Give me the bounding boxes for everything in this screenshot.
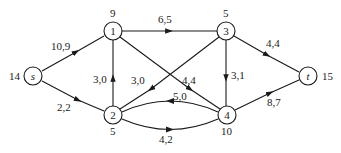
edge-label-1-4: 4,4 [182,74,196,86]
node-4-label: 4 [224,109,230,121]
nodes: s 14 1 9 2 5 3 5 4 10 t 15 [9,7,334,137]
node-1-value: 9 [110,7,116,19]
node-3-value: 5 [223,7,229,19]
edge-2-4-arrow [166,127,174,133]
edge-label-4-2: 5,0 [173,90,187,102]
node-2: 2 5 [104,106,122,137]
node-2-label: 2 [110,109,116,121]
node-s: s 14 [9,67,42,85]
edge-label-s-2: 2,2 [57,101,71,113]
node-3-label: 3 [223,25,229,37]
node-s-value: 14 [9,70,21,82]
edge-label-3-t: 4,4 [266,37,280,49]
edge-4-2 [122,101,218,112]
edge-label-4-t: 8,7 [267,96,281,108]
node-2-value: 5 [110,125,116,137]
node-s-label: s [31,70,35,82]
flow-network-diagram: 10,9 2,2 3,0 6,5 4,4 3,0 3,1 4,4 5,0 4,2… [0,0,341,153]
node-1: 1 9 [104,7,122,40]
edge-s-2 [42,81,104,111]
node-4: 4 10 [218,106,236,137]
node-t-value: 15 [322,70,334,82]
edge-labels: 10,9 2,2 3,0 6,5 4,4 3,0 3,1 4,4 5,0 4,2… [51,13,281,145]
edge-label-2-1: 3,0 [93,73,107,85]
edge-label-3-2: 3,0 [131,74,145,86]
node-1-label: 1 [110,25,116,37]
edges [42,31,299,133]
edge-label-3-4: 3,1 [231,69,245,81]
node-t: t 15 [299,67,334,85]
edge-2-4 [122,119,218,130]
node-3: 3 5 [217,7,235,40]
node-4-value: 10 [221,125,233,137]
edge-label-1-3: 6,5 [158,13,172,25]
edge-label-s-1: 10,9 [51,40,71,52]
edge-label-2-4: 4,2 [159,133,173,145]
